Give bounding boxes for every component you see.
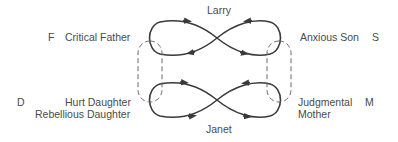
top-figure-eight	[150, 21, 281, 56]
left-top-role: Critical Father	[65, 31, 130, 43]
left-top-letter: F	[48, 31, 54, 43]
right-top-role: Anxious Son	[300, 31, 359, 43]
right-bottom-role-2: Mother	[298, 108, 331, 120]
figure-eight-diagram	[0, 0, 398, 142]
left-bottom-role-1: Hurt Daughter	[65, 96, 131, 108]
bottom-figure-eight	[150, 82, 281, 117]
right-top-letter: S	[372, 31, 379, 43]
right-bottom-role-1: Judgmental	[298, 96, 352, 108]
right-bottom-letter: M	[365, 96, 374, 108]
left-bottom-letter: D	[17, 96, 25, 108]
left-bottom-role-2: Rebellious Daughter	[35, 108, 130, 120]
bottom-person-label: Janet	[206, 123, 232, 135]
top-person-label: Larry	[207, 4, 231, 16]
